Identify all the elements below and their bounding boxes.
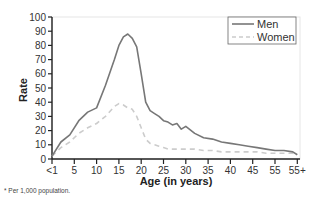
x-tick-label: 55+: [289, 165, 306, 176]
y-tick-label: 20: [35, 125, 47, 136]
y-tick-label: 90: [35, 26, 47, 37]
y-tick-label: 60: [35, 68, 47, 79]
x-tick-label: 45: [247, 165, 259, 176]
data-series: [52, 34, 297, 156]
x-tick-label: <1: [46, 165, 58, 176]
y-tick-label: 70: [35, 54, 47, 65]
x-tick-label: 55: [269, 165, 281, 176]
line-chart: 0102030405060708090100 <1510152025303540…: [0, 0, 319, 202]
x-tick-label: 10: [91, 165, 103, 176]
legend-men-label: Men: [257, 18, 278, 30]
y-tick-label: 40: [35, 97, 47, 108]
y-tick-label: 50: [35, 83, 47, 94]
x-axis-title: Age (in years): [140, 175, 213, 187]
y-tick-label: 30: [35, 111, 47, 122]
x-tick-label: 5: [72, 165, 78, 176]
y-ticks: 0102030405060708090100: [29, 12, 52, 165]
y-tick-label: 10: [35, 139, 47, 150]
legend: Men Women: [228, 17, 296, 44]
x-tick-label: 15: [113, 165, 125, 176]
footnote: * Per 1,000 population.: [4, 187, 70, 194]
x-ticks: <1510152025303540455555+: [46, 159, 306, 176]
series-men-line: [52, 34, 297, 156]
y-tick-label: 100: [29, 12, 46, 23]
y-axis-title: Rate: [17, 78, 29, 102]
legend-women-label: Women: [257, 31, 295, 43]
y-tick-label: 0: [40, 154, 46, 165]
y-tick-label: 80: [35, 40, 47, 51]
x-tick-label: 40: [225, 165, 237, 176]
